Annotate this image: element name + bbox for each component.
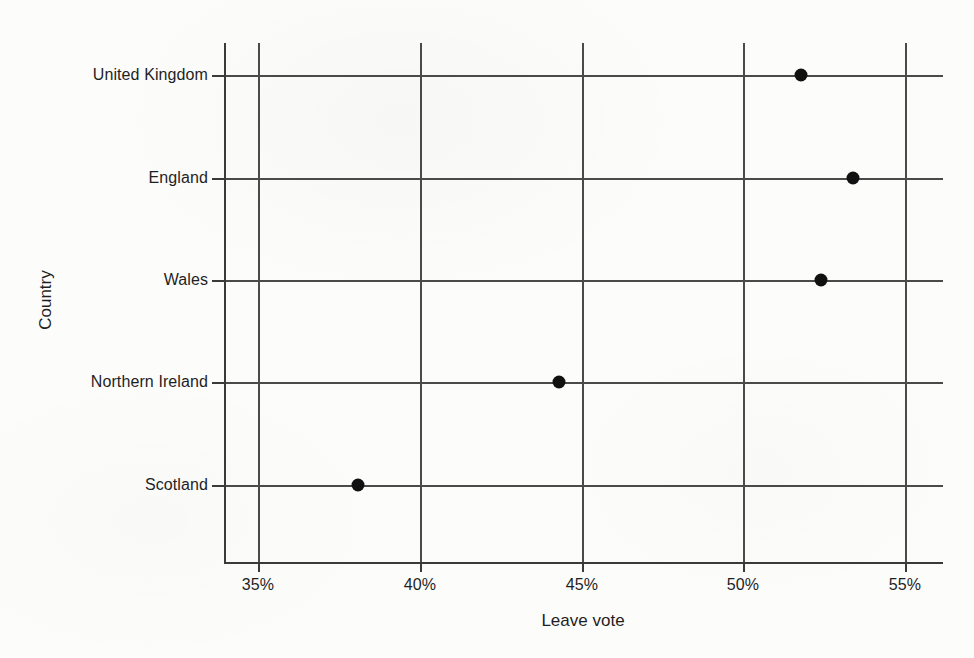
x-tick-mark-50 (743, 562, 745, 572)
y-tick-label-northern-ireland: Northern Ireland (91, 373, 208, 391)
dot-plot-figure: 35% 40% 45% 50% 55% United Kingdom Engla… (0, 0, 974, 658)
y-axis-title: Country (36, 270, 56, 330)
y-tick-mark-scotland (212, 485, 224, 487)
x-axis-title: Leave vote (541, 611, 624, 631)
x-tick-label-35: 35% (242, 576, 274, 594)
gridline-horizontal-wales (224, 280, 943, 282)
y-tick-mark-northern-ireland (212, 382, 224, 384)
x-tick-label-55: 55% (889, 576, 921, 594)
gridline-horizontal-northern-ireland (224, 382, 943, 384)
gridline-horizontal-scotland (224, 485, 943, 487)
data-point-scotland (352, 479, 365, 492)
x-tick-label-45: 45% (566, 576, 598, 594)
data-point-northern-ireland (552, 376, 565, 389)
y-tick-label-united-kingdom: United Kingdom (93, 66, 208, 84)
data-point-united-kingdom (795, 69, 808, 82)
y-tick-label-wales: Wales (164, 271, 208, 289)
y-tick-mark-wales (212, 280, 224, 282)
x-tick-mark-55 (905, 562, 907, 572)
x-tick-label-50: 50% (727, 576, 759, 594)
y-tick-mark-england (212, 178, 224, 180)
x-tick-mark-45 (582, 562, 584, 572)
x-tick-mark-35 (258, 562, 260, 572)
y-axis-line (224, 43, 226, 564)
y-tick-mark-united-kingdom (212, 75, 224, 77)
y-tick-label-scotland: Scotland (145, 476, 208, 494)
data-point-wales (814, 274, 827, 287)
x-tick-mark-40 (420, 562, 422, 572)
x-tick-label-40: 40% (404, 576, 436, 594)
data-point-england (847, 172, 860, 185)
gridline-horizontal-england (224, 178, 943, 180)
gridline-horizontal-united-kingdom (224, 75, 943, 77)
y-tick-label-england: England (149, 169, 208, 187)
